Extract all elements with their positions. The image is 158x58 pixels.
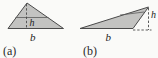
caption-b: (b) [83, 44, 97, 58]
geometry-figure: h b (a) h b (b) [0, 0, 158, 58]
triangles-diagram: h b (a) h b (b) [0, 0, 158, 58]
height-label-a: h [30, 17, 35, 28]
triangle-a [8, 3, 64, 29]
base-label-a: b [30, 31, 36, 43]
triangle-b [80, 7, 149, 29]
base-label-b: b [106, 31, 112, 43]
height-label-b: h [151, 9, 156, 20]
caption-a: (a) [3, 44, 16, 58]
panel-b: h b (b) [80, 7, 156, 58]
panel-a: h b (a) [3, 3, 64, 58]
